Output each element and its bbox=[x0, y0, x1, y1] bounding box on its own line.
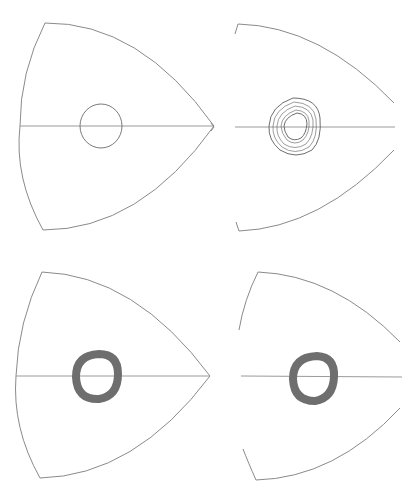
figure-canvas bbox=[0, 0, 416, 496]
rounded-triangle-outline bbox=[16, 272, 211, 478]
outline-top-arc bbox=[239, 272, 400, 342]
outline-left-stub bbox=[211, 123, 214, 131]
outline-bottom-arc bbox=[243, 408, 400, 480]
orbit-ring bbox=[76, 354, 118, 399]
center-axis bbox=[241, 376, 402, 377]
panel-top-right bbox=[211, 24, 395, 231]
panel-bottom-right bbox=[239, 272, 402, 480]
orbit-ring bbox=[293, 356, 334, 401]
panel-bottom-left bbox=[16, 272, 211, 478]
outline-bottom-arc bbox=[236, 150, 394, 231]
panel-top-left bbox=[19, 23, 214, 230]
outline-top-arc bbox=[235, 24, 394, 103]
